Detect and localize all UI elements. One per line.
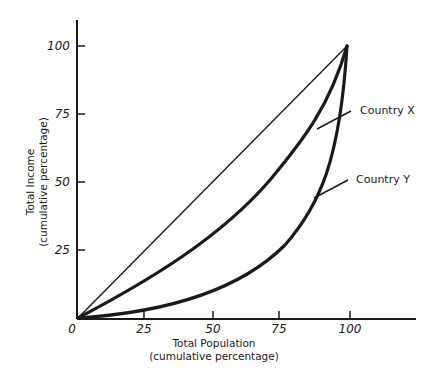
x-tick-label-50: 50 (205, 322, 221, 336)
y-axis-title: Total Income (24, 149, 36, 217)
x-axis-subtitle: (cumulative percentage) (149, 350, 279, 362)
country-x-leader-line (317, 111, 351, 129)
country-y-label: Country Y (356, 173, 410, 186)
origin-label: 0 (68, 322, 76, 336)
x-axis-title: Total Population (171, 337, 255, 349)
lorenz-chart: 100 75 50 25 0 25 50 75 100 Total Popula… (0, 0, 436, 382)
y-tick-label-50: 50 (55, 175, 71, 189)
x-tick-label-75: 75 (271, 322, 286, 336)
y-tick-label-100: 100 (47, 39, 70, 53)
equality-line (78, 46, 347, 318)
country-x-label: Country X (360, 104, 415, 117)
y-axis-subtitle: (cumulative percentage) (37, 117, 49, 247)
y-tick-label-75: 75 (55, 107, 70, 121)
x-ticks (144, 311, 350, 319)
x-tick-label-25: 25 (136, 322, 151, 336)
x-tick-label-100: 100 (339, 322, 362, 336)
y-tick-label-25: 25 (55, 243, 70, 257)
y-ticks (77, 46, 85, 250)
